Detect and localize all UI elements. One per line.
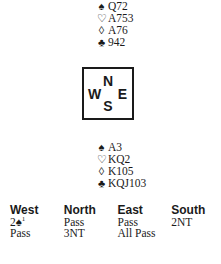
- footnote-marker: 1: [22, 215, 26, 223]
- compass-south: S: [103, 98, 112, 114]
- bid-west: Pass: [10, 227, 64, 239]
- spade-icon: ♠: [95, 141, 108, 153]
- north-hand: ♠Q72 ♡A753 ◊A76 ♣942: [95, 0, 134, 48]
- heart-icon: ♡: [95, 153, 108, 165]
- club-icon: ♣: [95, 36, 108, 48]
- north-club-cards: 942: [108, 36, 125, 48]
- north-spade-cards: Q72: [108, 0, 128, 12]
- diamond-icon: ◊: [95, 24, 108, 36]
- header-west: West: [10, 203, 64, 217]
- north-heart-cards: A753: [108, 12, 134, 24]
- north-spades: ♠Q72: [95, 0, 134, 12]
- diamond-icon: ◊: [95, 165, 108, 177]
- auction-table: West North East South 2♠1 Pass Pass 2NT …: [10, 203, 221, 238]
- bid-east: All Pass: [118, 227, 172, 239]
- north-hearts: ♡A753: [95, 12, 134, 24]
- south-spade-cards: A3: [108, 141, 122, 153]
- club-icon: ♣: [95, 177, 108, 189]
- south-hearts: ♡KQ2: [95, 153, 146, 165]
- compass-west: W: [88, 86, 101, 102]
- header-south: South: [171, 203, 221, 217]
- heart-icon: ♡: [95, 12, 108, 24]
- south-clubs: ♣KQJ103: [95, 177, 146, 189]
- compass-east: E: [118, 86, 127, 102]
- south-diamonds: ◊K105: [95, 165, 146, 177]
- south-spades: ♠A3: [95, 141, 146, 153]
- south-heart-cards: KQ2: [108, 153, 130, 165]
- header-north: North: [64, 203, 118, 217]
- compass-box: N W E S: [82, 67, 134, 120]
- auction-header: West North East South: [10, 203, 221, 216]
- header-east: East: [118, 203, 172, 217]
- spade-icon: ♠: [95, 0, 108, 12]
- compass-north: N: [103, 73, 113, 89]
- auction-row: Pass 3NT All Pass: [10, 227, 221, 238]
- north-clubs: ♣942: [95, 36, 134, 48]
- north-diamond-cards: A76: [108, 24, 128, 36]
- south-hand: ♠A3 ♡KQ2 ◊K105 ♣KQJ103: [95, 141, 146, 189]
- south-diamond-cards: K105: [108, 165, 134, 177]
- auction-row: 2♠1 Pass Pass 2NT: [10, 216, 221, 227]
- bid-north: 3NT: [64, 227, 118, 239]
- south-club-cards: KQJ103: [108, 177, 146, 189]
- bid-south: 2NT: [171, 216, 221, 228]
- north-diamonds: ◊A76: [95, 24, 134, 36]
